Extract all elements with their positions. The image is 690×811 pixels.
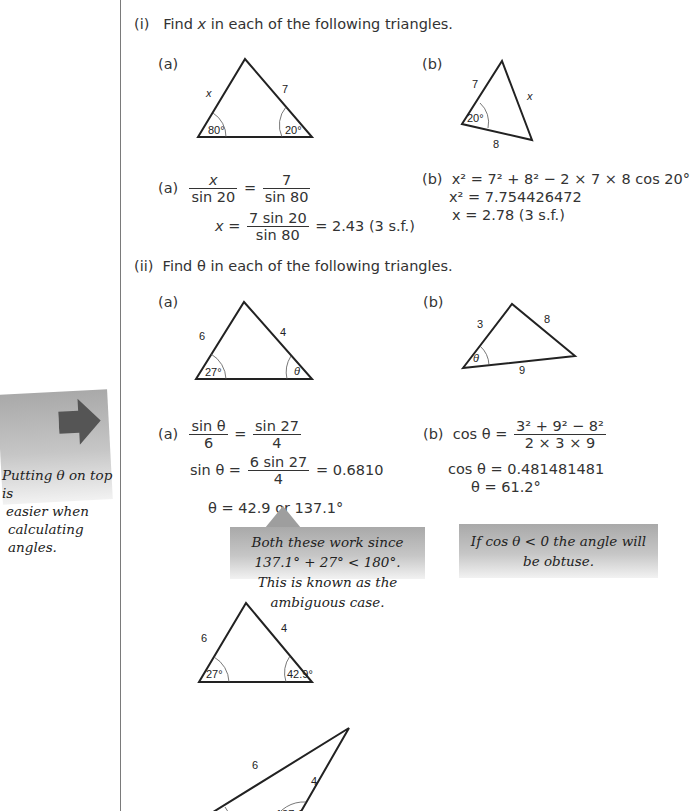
- solution-ii-b-steps: cos θ = 0.481481481 θ = 61.2°: [448, 460, 604, 496]
- result: = 2.43 (3 s.f.): [315, 218, 415, 234]
- fraction-numerator: 7 sin 20: [247, 210, 309, 227]
- equals: =: [244, 180, 256, 196]
- fraction-denominator: 4: [248, 471, 310, 488]
- triangle-i-a: 80° 20° x 7: [190, 50, 320, 150]
- fraction-numerator: 7: [263, 172, 311, 189]
- equation-line: θ = 61.2°: [448, 478, 604, 496]
- solution-label: (a): [158, 180, 178, 196]
- equals: =: [234, 426, 246, 442]
- triangle-ii-b-label: (b): [423, 294, 444, 310]
- note-line: be obtuse.: [459, 551, 658, 571]
- instruction-var: x: [198, 16, 207, 32]
- side-6: 6: [199, 330, 205, 342]
- side-8: 8: [493, 138, 499, 150]
- solution-i-b: (b) x² = 7² + 8² − 2 × 7 × 8 cos 20° x² …: [422, 170, 690, 224]
- solution-i-a: (a) xsin 20 = 7sin 80: [158, 172, 312, 206]
- fraction-numerator: sin θ: [189, 418, 227, 435]
- angle-27: 27°: [206, 668, 223, 680]
- triangle-obtuse-solution: 27° 137.1 6 4: [190, 722, 360, 811]
- solution-ii-a-step2: sin θ = 6 sin 274 = 0.6810: [190, 454, 383, 488]
- note-line: Putting θ on top is: [0, 466, 118, 502]
- triangle-i-b-label: (b): [422, 56, 443, 72]
- angle-42-9: 42.9°: [287, 668, 313, 680]
- fraction-numerator: sin 27: [253, 418, 301, 435]
- equation-line: x = 2.78 (3 s.f.): [422, 206, 690, 224]
- side-7: 7: [472, 78, 478, 90]
- angle-20: 20°: [285, 124, 302, 136]
- margin-rule: [120, 0, 121, 811]
- fraction-numerator: x: [189, 172, 237, 189]
- equation-line: x² = 7² + 8² − 2 × 7 × 8 cos 20°: [452, 171, 690, 187]
- side-3: 3: [477, 318, 483, 330]
- triangle-ii-b: θ 3 8 9: [455, 296, 585, 376]
- fraction-denominator: sin 80: [263, 189, 311, 206]
- note-line: easier when: [0, 502, 118, 520]
- triangle-acute-solution: 27° 42.9° 6 4: [190, 598, 320, 688]
- part-ii-heading: (ii) Find θ in each of the following tri…: [134, 258, 453, 274]
- sidebar-note: Putting θ on top is easier when calculat…: [0, 466, 118, 556]
- side-x: x: [526, 90, 533, 102]
- fraction-denominator: 2 × 3 × 9: [514, 435, 606, 452]
- side-9: 9: [519, 364, 525, 376]
- callout-pointer: [265, 506, 301, 528]
- angle-theta: θ: [473, 352, 479, 364]
- fraction-numerator: 6 sin 27: [248, 454, 310, 471]
- instruction-text: Find θ in each of the following triangle…: [163, 258, 453, 274]
- solution-label: (a): [158, 426, 178, 442]
- ambiguous-case-callout: Both these work since 137.1° + 27° < 180…: [230, 527, 425, 579]
- obtuse-callout: If cos θ < 0 the angle will be obtuse.: [459, 524, 658, 578]
- part-i-heading: (i) Find x in each of the following tria…: [134, 16, 453, 32]
- triangle-i-a-label: (a): [158, 56, 178, 72]
- fraction-denominator: 4: [253, 435, 301, 452]
- side-6: 6: [252, 759, 258, 771]
- side-7: 7: [282, 83, 288, 95]
- fraction-denominator: sin 80: [247, 227, 309, 244]
- side-8: 8: [544, 313, 550, 325]
- solution-label: (b): [423, 426, 444, 442]
- side-x: x: [205, 87, 212, 99]
- result: = 0.6810: [316, 462, 384, 478]
- part-i-label: (i): [134, 16, 149, 32]
- angle-theta: θ: [294, 365, 300, 377]
- triangle-i-b: 20° 7 x 8: [455, 50, 555, 150]
- angle-20: 20°: [467, 112, 484, 124]
- fraction-numerator: 3² + 9² − 8²: [514, 418, 606, 435]
- side-6: 6: [201, 632, 207, 644]
- solution-i-a-step2: x = 7 sin 20sin 80 = 2.43 (3 s.f.): [215, 210, 415, 244]
- equation-line: cos θ = 0.481481481: [448, 460, 604, 478]
- side-4: 4: [311, 775, 317, 787]
- side-4: 4: [281, 622, 287, 634]
- solution-ii-b: (b) cos θ = 3² + 9² − 8²2 × 3 × 9: [423, 418, 608, 452]
- note-line: calculating angles.: [0, 520, 118, 556]
- side-4: 4: [280, 326, 286, 338]
- angle-80: 80°: [208, 124, 225, 136]
- instruction-text: Find: [163, 16, 197, 32]
- lhs: cos θ =: [453, 426, 508, 442]
- triangle-ii-a-label: (a): [158, 294, 178, 310]
- note-line: If cos θ < 0 the angle will: [459, 531, 658, 551]
- instruction-text-end: in each of the following triangles.: [206, 16, 453, 32]
- note-line: Both these work since 137.1° + 27° < 180…: [230, 532, 425, 572]
- angle-27: 27°: [205, 366, 222, 378]
- part-ii-label: (ii): [134, 258, 153, 274]
- solution-ii-a: (a) sin θ6 = sin 274: [158, 418, 303, 452]
- lhs: x =: [215, 218, 240, 234]
- fraction-denominator: sin 20: [189, 189, 237, 206]
- solution-label: (b): [422, 171, 443, 187]
- triangle-ii-a: 27° θ 6 4: [190, 296, 320, 386]
- equation-line: x² = 7.754426472: [422, 188, 690, 206]
- fraction-denominator: 6: [189, 435, 227, 452]
- lhs: sin θ =: [190, 462, 241, 478]
- arrow-right-icon: [58, 397, 104, 445]
